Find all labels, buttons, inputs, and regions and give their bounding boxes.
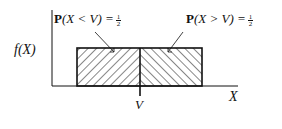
prob-symbol: P bbox=[186, 11, 194, 26]
x-axis-label: X bbox=[229, 89, 238, 105]
median-label: V bbox=[135, 97, 143, 113]
left-region-hatch bbox=[77, 48, 140, 86]
left-probability-label: P(X < V) =12 bbox=[54, 11, 121, 27]
right-probability-label: P(X > V) =12 bbox=[186, 11, 253, 27]
right-prob-fraction: 12 bbox=[248, 14, 254, 27]
left-prob-fraction: 12 bbox=[116, 14, 122, 27]
y-axis-label: f(X) bbox=[14, 42, 36, 58]
prob-symbol: P bbox=[54, 11, 62, 26]
fraction-denominator: 2 bbox=[116, 21, 122, 27]
right-region-hatch bbox=[140, 48, 202, 86]
right-prob-expression: (X > V) = bbox=[194, 11, 246, 26]
fraction-denominator: 2 bbox=[248, 21, 254, 27]
left-prob-expression: (X < V) = bbox=[62, 11, 114, 26]
